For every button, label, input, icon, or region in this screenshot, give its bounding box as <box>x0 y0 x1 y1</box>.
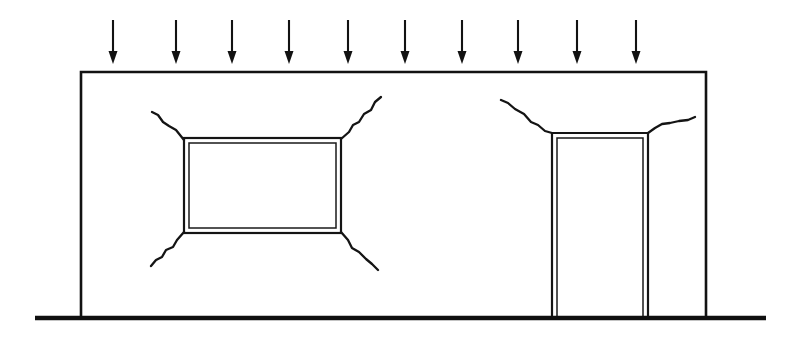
load-arrow-4 <box>285 20 294 64</box>
load-arrow-head <box>228 51 237 64</box>
crack-window-top-left <box>152 112 184 140</box>
wall-outline <box>81 72 706 318</box>
load-arrow-group <box>109 20 641 64</box>
window-opening <box>184 138 341 233</box>
load-arrow-9 <box>573 20 582 64</box>
window-opening-outer-frame <box>184 138 341 233</box>
load-arrow-1 <box>109 20 118 64</box>
crack-window-bottom-right <box>341 232 378 270</box>
crack-door-top-right <box>648 117 695 133</box>
load-arrow-6 <box>401 20 410 64</box>
crack-door-top-left <box>501 100 552 133</box>
load-arrow-head <box>109 51 118 64</box>
load-arrow-2 <box>172 20 181 64</box>
load-arrow-head <box>401 51 410 64</box>
load-arrow-head <box>632 51 641 64</box>
crack-group <box>151 97 695 270</box>
window-opening-inner-frame <box>189 143 336 228</box>
openings-group <box>184 133 648 318</box>
crack-window-top-right <box>341 97 381 139</box>
load-arrow-5 <box>344 20 353 64</box>
load-arrow-head <box>172 51 181 64</box>
load-arrow-head <box>285 51 294 64</box>
load-arrow-3 <box>228 20 237 64</box>
load-arrow-8 <box>514 20 523 64</box>
door-opening-outer-frame <box>552 133 648 318</box>
load-arrow-10 <box>632 20 641 64</box>
door-opening-inner-frame <box>557 138 643 318</box>
load-arrow-head <box>514 51 523 64</box>
load-arrow-7 <box>458 20 467 64</box>
load-arrow-head <box>573 51 582 64</box>
door-opening <box>552 133 648 318</box>
load-arrow-head <box>344 51 353 64</box>
wall-crack-diagram <box>0 0 797 338</box>
diagram-canvas <box>0 0 797 338</box>
crack-window-bottom-left <box>151 232 184 266</box>
load-arrow-head <box>458 51 467 64</box>
